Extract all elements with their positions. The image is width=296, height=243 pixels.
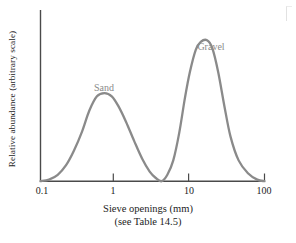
figure-sieve-grain-size-distribution: Relative abundance (arbitrary scale) 0.1… (0, 0, 296, 243)
x-axis-caption: Sieve openings (mm) (see Table 14.5) (0, 202, 296, 228)
annotation-sand: Sand (94, 82, 114, 93)
distribution-curve (41, 40, 265, 181)
x-tick-label-2: 10 (184, 185, 194, 196)
page-edge-artifact (286, 6, 292, 21)
x-tick-label-0: 0.1 (36, 185, 49, 196)
x-tick-label-3: 100 (257, 185, 272, 196)
x-tick-label-1: 1 (111, 185, 116, 196)
x-axis-caption-line2: (see Table 14.5) (0, 215, 296, 228)
annotation-gravel: Gravel (197, 41, 224, 52)
x-axis-caption-line1: Sieve openings (mm) (0, 202, 296, 215)
